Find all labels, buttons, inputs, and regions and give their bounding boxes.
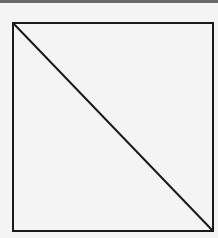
diagram-canvas [0,0,218,238]
diagonal-line [13,23,213,231]
